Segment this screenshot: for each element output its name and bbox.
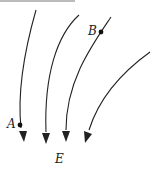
field-line-1	[20, 10, 36, 128]
field-line-4	[89, 52, 150, 130]
point-b-dot	[99, 30, 104, 35]
arrowhead-3	[62, 131, 70, 142]
arrowhead-2	[42, 133, 50, 144]
point-b-label: B	[87, 24, 97, 38]
point-a-dot	[18, 123, 23, 128]
field-diagram: A B E	[0, 0, 155, 179]
arrowhead-1	[19, 131, 27, 142]
field-line-2	[46, 15, 79, 132]
field-label-e: E	[54, 152, 64, 166]
cropped-text-artifact	[0, 0, 75, 2]
arrowhead-4	[84, 131, 92, 143]
point-a-label: A	[6, 117, 16, 131]
